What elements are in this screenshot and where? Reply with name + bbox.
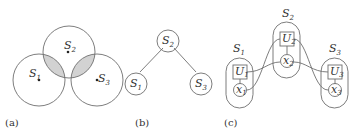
label-s1: S1 [29, 67, 41, 82]
capsule-s2 [273, 22, 300, 78]
caption-b: (b) [135, 117, 149, 128]
label-x2: x2 [283, 54, 294, 68]
label-s2: S2 [64, 39, 77, 54]
panel-b: S2 S1 S3 (b) [125, 30, 212, 128]
panel-c: S1 S2 S3 U1 U2 U3 x1 x2 x3 (c) [224, 7, 348, 128]
label-b-s2: S2 [162, 34, 175, 49]
edge-x1-u2 [247, 39, 280, 90]
edge-s2-s3 [174, 48, 196, 72]
label-c-s1: S1 [233, 42, 245, 57]
label-b-s3: S3 [195, 77, 208, 92]
caption-c: (c) [224, 117, 238, 128]
label-x3: x3 [331, 83, 342, 97]
label-c-s2: S2 [282, 7, 295, 22]
label-c-s3: S3 [329, 42, 342, 57]
label-s3: S3 [98, 72, 111, 87]
caption-a: (a) [5, 117, 19, 128]
edge-s2-s1 [140, 48, 163, 72]
figure-canvas: S1 S2 S3 (a) S2 S1 S3 (b) [0, 0, 361, 135]
label-b-s1: S1 [130, 77, 142, 92]
panel-a: S1 S2 S3 (a) [5, 26, 123, 128]
label-x1: x1 [236, 83, 247, 97]
